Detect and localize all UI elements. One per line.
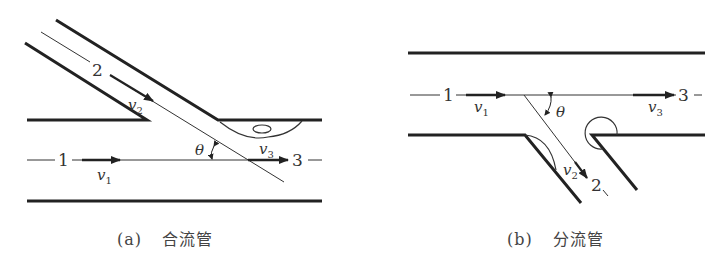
theta-label: θ [195,141,204,159]
caption-a-text: 合流管 [162,230,213,249]
vortex-ellipse [253,125,271,133]
diverging-pipe-diagram: 1 3 2 θ v1 v3 v2 [408,53,705,203]
separation-bubble [220,121,302,138]
angle-arc [545,97,551,115]
label-1: 1 [58,150,69,170]
pipe-diagrams: 2 1 3 θ v2 v1 v3 1 3 2 θ v1 v3 v2 [0,0,724,273]
caption-a: (a) 合流管 [117,226,213,250]
branch-right-wall [592,135,705,190]
caption-b-text: 分流管 [553,230,604,249]
v1-label: v1 [97,166,112,186]
caption-b: (b) 分流管 [507,226,604,250]
branch-centerline-tail [603,190,608,196]
v3-label: v3 [259,140,274,160]
v3-label: v3 [648,98,663,118]
v1-label: v1 [474,98,489,118]
label-3: 3 [292,150,303,170]
label-1: 1 [443,85,454,105]
caption-a-label: (a) [117,230,142,249]
v2-label: v2 [128,96,143,116]
theta-label: θ [556,103,565,121]
branch-left-wall [408,135,581,203]
angle-arc [211,146,214,159]
converging-pipe-diagram: 2 1 3 θ v2 v1 v3 [25,20,322,201]
label-3: 3 [678,85,689,105]
caption-b-label: (b) [507,230,533,249]
label-2: 2 [92,60,103,80]
label-2: 2 [591,175,602,195]
